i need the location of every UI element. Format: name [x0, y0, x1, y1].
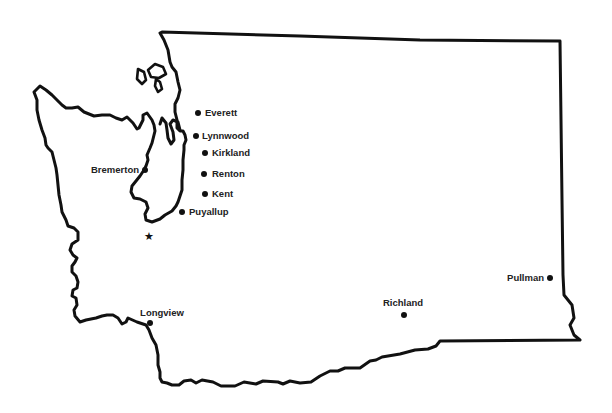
city-label: Renton	[212, 168, 245, 179]
city-label: Kent	[212, 188, 234, 199]
city-bremerton: Bremerton	[91, 164, 148, 175]
state-outline	[34, 32, 580, 386]
san-juan-island-1	[148, 64, 166, 78]
city-kent: Kent	[202, 188, 234, 199]
city-richland: Richland	[383, 297, 423, 318]
city-puyallup: Puyallup	[179, 206, 229, 217]
city-dot-icon	[193, 133, 199, 139]
city-dot-icon	[179, 209, 185, 215]
city-label: Richland	[383, 297, 423, 308]
city-dot-icon	[401, 312, 407, 318]
city-everett: Everett	[195, 107, 238, 118]
kitsap-peninsula-outline	[160, 118, 180, 144]
city-dot-icon	[147, 320, 153, 326]
san-juan-island-3	[155, 79, 162, 92]
san-juan-island-2	[137, 69, 146, 84]
city-label: Bremerton	[91, 164, 139, 175]
city-pullman: Pullman	[507, 272, 553, 283]
city-lynnwood: Lynnwood	[193, 130, 249, 141]
capital-star-icon: ★	[144, 230, 154, 243]
city-dot-icon	[202, 150, 208, 156]
city-label: Kirkland	[212, 147, 250, 158]
city-label: Lynnwood	[202, 130, 249, 141]
city-label: Everett	[205, 107, 238, 118]
city-dot-icon	[202, 191, 208, 197]
city-label: Pullman	[507, 272, 544, 283]
city-dot-icon	[547, 275, 553, 281]
city-renton: Renton	[201, 168, 245, 179]
city-dot-icon	[195, 110, 201, 116]
city-label: Puyallup	[189, 206, 229, 217]
city-label: Longview	[140, 307, 184, 318]
city-dot-icon	[142, 167, 148, 173]
city-kirkland: Kirkland	[202, 147, 250, 158]
washington-state-map: ★ Everett Lynnwood Kirkland Renton Kent …	[0, 0, 612, 413]
city-longview: Longview	[140, 307, 184, 326]
city-dot-icon	[201, 171, 207, 177]
